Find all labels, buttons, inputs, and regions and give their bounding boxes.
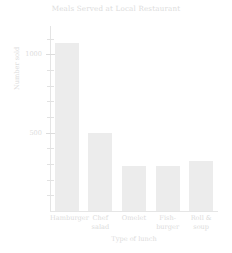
y-tick-minor xyxy=(47,164,54,165)
y-tick-minor xyxy=(47,180,54,181)
x-tick-label: Fish- burger xyxy=(151,214,185,231)
y-tick-minor xyxy=(47,86,54,87)
x-tick-label: Omelet xyxy=(117,214,151,223)
bar xyxy=(55,43,79,211)
x-axis-line xyxy=(50,211,218,212)
x-tick-label: Hamburger xyxy=(50,214,84,223)
y-tick-minor xyxy=(47,70,54,71)
bar xyxy=(189,161,213,211)
y-axis-title: Number sold xyxy=(13,47,21,90)
plot-area: 5001000 xyxy=(50,26,218,212)
y-tick-minor xyxy=(47,195,54,196)
y-tick-minor xyxy=(47,101,54,102)
y-tick-label: 1000 xyxy=(25,50,42,58)
bar xyxy=(156,166,180,211)
y-tick-minor xyxy=(47,117,54,118)
x-tick-label: Roll & soup xyxy=(184,214,218,231)
y-tick-major: 1000 xyxy=(46,54,55,55)
bar xyxy=(122,166,146,211)
y-tick-major: 500 xyxy=(46,133,55,134)
bar xyxy=(88,133,112,211)
y-tick-minor xyxy=(47,148,54,149)
y-tick-minor xyxy=(47,39,54,40)
chart-title: Meals Served at Local Restaurant xyxy=(0,4,232,13)
x-axis-title: Type of lunch xyxy=(50,235,218,243)
x-tick-label: Chef salad xyxy=(84,214,118,231)
bar-chart: Meals Served at Local Restaurant Number … xyxy=(0,0,232,253)
y-tick-label: 500 xyxy=(29,129,42,137)
